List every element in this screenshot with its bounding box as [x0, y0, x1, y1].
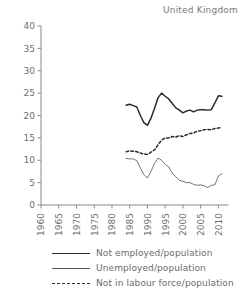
- y-axis-tick-label: 5: [29, 178, 35, 188]
- x-axis-tick-label: 1960: [36, 213, 46, 236]
- legend-swatch-unemployed: [52, 264, 90, 272]
- series-group: [126, 93, 222, 187]
- x-axis-tick-label: 1995: [161, 213, 171, 236]
- y-axis-tick-label: 10: [24, 155, 36, 165]
- y-axis-tick-label: 0: [29, 200, 35, 210]
- y-axis-tick-label: 20: [24, 111, 36, 121]
- series-line-1: [126, 158, 222, 188]
- legend-item-unemployed: Unemployed/population: [52, 261, 206, 275]
- x-axis-tick-label: 1980: [107, 213, 117, 236]
- legend-item-not-in-labour-force: Not in labour force/population: [52, 276, 234, 290]
- x-axis-tick-label: 2005: [196, 213, 206, 236]
- series-line-0: [126, 93, 222, 125]
- y-axis-tick-label: 35: [24, 44, 35, 54]
- legend-swatch-not-in-labour-force: [52, 279, 90, 287]
- x-axis-tick-label: 1990: [143, 213, 153, 236]
- legend-label-not-employed: Not employed/population: [96, 248, 212, 258]
- legend-label-unemployed: Unemployed/population: [96, 263, 206, 273]
- legend-label-not-in-labour-force: Not in labour force/population: [96, 278, 234, 288]
- x-axis-tick-label: 1965: [54, 213, 64, 236]
- x-axis-tick-label: 1985: [125, 213, 135, 236]
- x-axis-tick-label: 2000: [178, 213, 188, 236]
- chart-legend: Not employed/population Unemployed/popul…: [0, 246, 246, 290]
- legend-swatch-not-employed: [52, 249, 90, 257]
- legend-item-not-employed: Not employed/population: [52, 246, 212, 260]
- x-axis-tick-label: 1975: [90, 213, 100, 236]
- y-axis-tick-label: 15: [24, 133, 35, 143]
- y-axis-tick-label: 30: [24, 66, 36, 76]
- y-axis-tick-label: 25: [24, 88, 35, 98]
- chart-container: United Kingdom 0510152025303540196019651…: [0, 0, 246, 290]
- x-axis-tick-label: 2010: [214, 213, 224, 236]
- x-axis-tick-label: 1970: [72, 213, 82, 236]
- y-axis-tick-label: 40: [24, 21, 36, 31]
- chart-plot-area: 0510152025303540196019651970197519801985…: [0, 0, 246, 246]
- series-line-2: [126, 128, 222, 155]
- axes-group: 0510152025303540196019651970197519801985…: [24, 21, 229, 236]
